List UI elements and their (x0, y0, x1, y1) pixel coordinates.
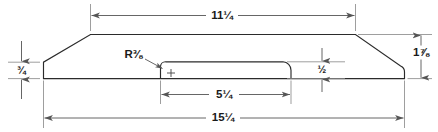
dim-label-top-width: 11¼ (211, 9, 234, 21)
technical-drawing: 11¼ ¾ 1⅞ ½ 5¼ 15¼ R⅜ (0, 0, 438, 132)
dim-label-recess-depth: ½ (318, 63, 327, 75)
callout-label-fillet-radius: R⅜ (125, 48, 144, 60)
profile-outline-outer (44, 35, 405, 79)
dim-label-left-thickness: ¾ (17, 64, 27, 76)
leader-line-fillet-radius (145, 59, 163, 69)
dim-label-overall-width: 15¼ (212, 111, 236, 123)
profile-recess (161, 62, 292, 79)
dim-label-right-height: 1⅞ (413, 46, 430, 58)
dim-label-recess-width: 5¼ (216, 88, 233, 100)
drawing-canvas: 11¼ ¾ 1⅞ ½ 5¼ 15¼ R⅜ (0, 0, 438, 132)
